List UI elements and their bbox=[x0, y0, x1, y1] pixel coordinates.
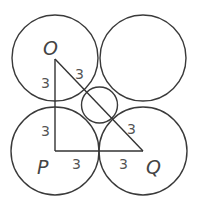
geometry-diagram: O P Q 3 3 3 3 3 3 bbox=[0, 0, 198, 206]
length-label-op-lower: 3 bbox=[41, 123, 50, 139]
vertex-label-q: Q bbox=[146, 156, 161, 178]
vertex-label-p: P bbox=[37, 156, 49, 178]
length-label-pq-right: 3 bbox=[119, 156, 128, 172]
length-label-oq-upper: 3 bbox=[75, 66, 84, 82]
circle-top-right bbox=[100, 15, 186, 101]
segment-oq bbox=[55, 59, 143, 151]
vertex-label-o: O bbox=[43, 37, 58, 59]
length-label-oq-lower: 3 bbox=[127, 121, 136, 137]
length-label-pq-left: 3 bbox=[72, 156, 81, 172]
length-label-op-upper: 3 bbox=[41, 75, 50, 91]
